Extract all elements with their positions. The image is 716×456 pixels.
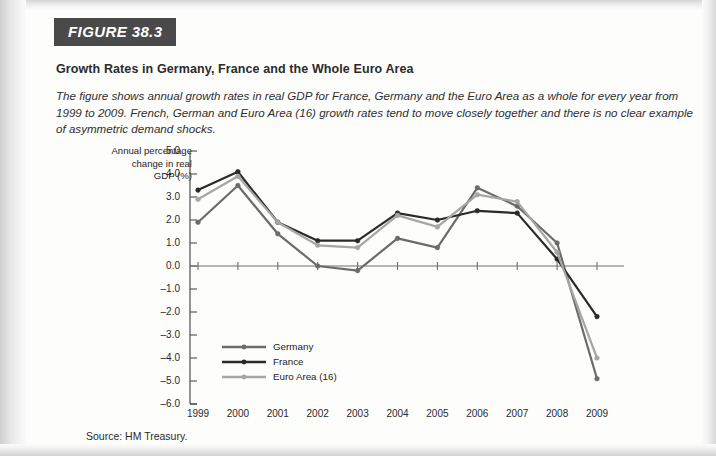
data-point	[475, 192, 480, 197]
chart-axes	[190, 151, 624, 404]
data-point	[555, 250, 560, 255]
x-tick-label: 2003	[338, 408, 378, 419]
data-point	[395, 211, 400, 216]
figure-description: The figure shows annual growth rates in …	[56, 88, 694, 138]
y-tick-label: –6.0	[148, 398, 180, 409]
y-tick-label: 1.0	[148, 237, 180, 248]
data-point	[196, 188, 201, 193]
data-point	[515, 204, 520, 209]
legend-entry-label: Euro Area (16)	[273, 371, 337, 382]
data-point	[315, 264, 320, 269]
x-tick-label: 2007	[497, 408, 537, 419]
data-point	[475, 209, 480, 214]
data-point	[435, 245, 440, 250]
data-point	[355, 245, 360, 250]
series-line-france	[198, 172, 597, 317]
data-point	[395, 236, 400, 241]
y-tick-label: 3.0	[148, 191, 180, 202]
legend-swatch-marker	[242, 345, 247, 350]
data-point	[515, 199, 520, 204]
data-point	[355, 238, 360, 243]
data-point	[276, 232, 281, 237]
data-point	[395, 213, 400, 218]
data-point	[435, 218, 440, 223]
y-tick-label: –2.0	[148, 306, 180, 317]
figure-title: Growth Rates in Germany, France and the …	[56, 62, 414, 76]
data-point	[355, 268, 360, 273]
page-edge-right	[702, 0, 716, 456]
data-point	[236, 169, 241, 174]
x-tick-label: 2009	[577, 408, 617, 419]
data-point	[475, 186, 480, 191]
x-tick-label: 2004	[378, 408, 418, 419]
x-tick-label: 2005	[417, 408, 457, 419]
y-tick-label: –5.0	[148, 375, 180, 386]
series-line-euro-area-16	[198, 176, 597, 358]
source-note: Source: HM Treasury.	[86, 430, 187, 442]
data-point	[276, 220, 281, 225]
x-tick-label: 2002	[298, 408, 338, 419]
y-tick-label: –1.0	[148, 283, 180, 294]
y-tick-label: 4.0	[148, 168, 180, 179]
data-point	[515, 211, 520, 216]
page-edge-bottom	[0, 444, 716, 456]
chart-legend	[222, 345, 266, 380]
y-tick-label: 2.0	[148, 214, 180, 225]
x-tick-label: 2006	[457, 408, 497, 419]
figure-number-badge: FIGURE 38.3	[54, 18, 176, 46]
data-point	[555, 241, 560, 246]
data-point	[196, 220, 201, 225]
y-tick-label: –4.0	[148, 352, 180, 363]
data-point	[595, 376, 600, 381]
legend-swatch-marker	[242, 360, 247, 365]
legend-entry-label: France	[273, 356, 304, 367]
y-tick-label: 5.0	[148, 145, 180, 156]
data-point	[276, 220, 281, 225]
figure-page: FIGURE 38.3 Growth Rates in Germany, Fra…	[0, 0, 716, 456]
x-tick-label: 2000	[218, 408, 258, 419]
series-line-germany	[198, 186, 597, 379]
chart-series	[196, 169, 600, 381]
page-edge-left	[0, 0, 26, 456]
legend-entry-label: Germany	[273, 341, 313, 352]
x-tick-label: 1999	[178, 408, 218, 419]
data-point	[595, 314, 600, 319]
data-point	[315, 243, 320, 248]
y-tick-label: –3.0	[148, 329, 180, 340]
data-point	[555, 257, 560, 262]
data-point	[196, 197, 201, 202]
data-point	[595, 356, 600, 361]
y-tick-label: 0.0	[148, 260, 180, 271]
data-point	[315, 238, 320, 243]
legend-swatch-marker	[242, 375, 247, 380]
x-tick-label: 2008	[537, 408, 577, 419]
data-point	[236, 174, 241, 179]
page-edge-top	[0, 0, 716, 10]
data-point	[435, 225, 440, 230]
x-tick-label: 2001	[258, 408, 298, 419]
data-point	[236, 183, 241, 188]
